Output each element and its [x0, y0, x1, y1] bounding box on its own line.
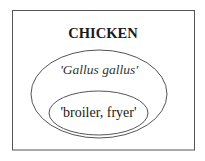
outer-set-label: 'Gallus gallus' — [60, 62, 139, 77]
diagram-title: CHICKEN — [68, 25, 138, 41]
chicken-euler-diagram: CHICKEN 'Gallus gallus' 'broiler, fryer' — [0, 0, 205, 161]
inner-set-label: 'broiler, fryer' — [60, 105, 136, 120]
